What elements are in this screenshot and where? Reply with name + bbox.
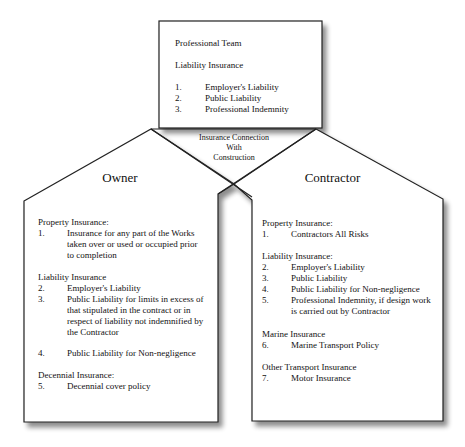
pt-item: Employer's Liability (205, 82, 279, 93)
contractor-item-line: is carried out by Contractor (291, 306, 390, 317)
owner-item-num: 3. (38, 294, 45, 305)
pt-item: Professional Indemnity (205, 104, 289, 115)
owner-item-line: to completion (67, 250, 117, 261)
contractor-section-heading: Marine Insurance (262, 329, 325, 340)
contractor-section-heading: Property Insurance: (262, 218, 333, 229)
owner-item-num: 2. (38, 283, 45, 294)
owner-item-line: Public Liability for limits in excess of (67, 294, 203, 305)
contractor-item-num: 4. (262, 284, 269, 295)
owner-item-line: Employer's Liability (67, 283, 141, 294)
center-label-line-2: With (184, 143, 284, 153)
owner-section-heading: Property Insurance: (38, 217, 109, 228)
pt-item-num: 1. (175, 82, 182, 93)
owner-item-num: 5. (38, 381, 45, 392)
contractor-item-line: Motor Insurance (291, 373, 351, 384)
contractor-item-num: 5. (262, 295, 269, 306)
professional-team-section: Liability Insurance (175, 60, 243, 71)
contractor-section-heading: Liability Insurance: (262, 251, 333, 262)
owner-item-line: the Contractor (67, 327, 119, 338)
owner-section-heading: Liability Insurance (38, 272, 106, 283)
contractor-item-line: Public Liability for Non-negligence (291, 284, 420, 295)
contractor-section-heading: Other Transport Insurance (262, 362, 356, 373)
contractor-item-line: Public Liability (291, 273, 347, 284)
center-label-line-1: Insurance Connection (184, 133, 284, 143)
contractor-item-line: Professional Indemnity, if design work (291, 295, 431, 306)
owner-item-line: taken over or used or occupied prior (67, 239, 197, 250)
contractor-item-num: 1. (262, 229, 269, 240)
center-label-line-3: Construction (184, 153, 284, 163)
professional-team-title: Professional Team (175, 38, 241, 49)
contractor-item-num: 2. (262, 262, 269, 273)
pt-item-num: 3. (175, 104, 182, 115)
contractor-title: Contractor (280, 170, 385, 185)
owner-title: Owner (70, 170, 170, 185)
owner-item-line: Decennial cover policy (67, 381, 150, 392)
contractor-item-line: Employer's Liability (291, 262, 365, 273)
owner-item-line: Public Liability for Non-negligence (67, 348, 196, 359)
owner-item-num: 4. (38, 348, 45, 359)
owner-item-line: that stipulated in the contract or in (67, 305, 190, 316)
contractor-item-num: 6. (262, 340, 269, 351)
owner-section-heading: Decennial Insurance: (38, 370, 114, 381)
owner-item-line: Insurance for any part of the Works (67, 228, 195, 239)
contractor-item-line: Marine Transport Policy (291, 340, 379, 351)
contractor-item-num: 3. (262, 273, 269, 284)
owner-item-num: 1. (38, 228, 45, 239)
owner-item-line: respect of liability not indemnified by (67, 316, 203, 327)
pt-item-num: 2. (175, 93, 182, 104)
contractor-item-line: Contractors All Risks (291, 229, 369, 240)
pt-item: Public Liability (205, 93, 261, 104)
contractor-item-num: 7. (262, 373, 269, 384)
